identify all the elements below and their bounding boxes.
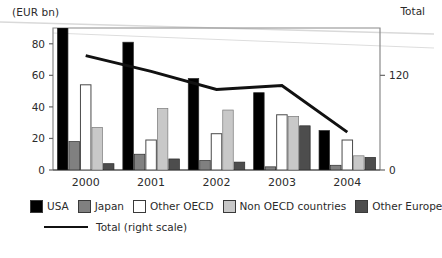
bar	[319, 131, 330, 170]
x-axis-tick-label: 2001	[137, 176, 165, 189]
x-axis-tick-label: 2000	[72, 176, 100, 189]
legend-swatch-non-oecd-countries	[223, 200, 236, 213]
y-axis-tick-label: 60	[32, 69, 45, 81]
legend-swatch-usa	[30, 200, 43, 213]
legend-label-usa: USA	[47, 201, 69, 212]
x-axis-tick-label: 2004	[333, 176, 361, 189]
bar	[123, 42, 134, 170]
legend-item-non-oecd-countries: Non OECD countries	[223, 200, 347, 213]
bar	[277, 115, 288, 170]
bar	[200, 161, 211, 170]
bar	[288, 116, 299, 170]
y-axis-tick-label: 80	[32, 38, 45, 50]
legend-swatch-other-oecd	[133, 200, 146, 213]
legend-label-other-oecd: Other OECD	[150, 201, 213, 212]
bar	[157, 108, 168, 170]
legend-swatch-other-europe	[355, 200, 368, 213]
y-axis-tick-label: 20	[32, 132, 45, 144]
y2-axis-tick-label: 120	[389, 69, 409, 81]
legend-label-non-oecd-countries: Non OECD countries	[240, 201, 347, 212]
legend-item-other-oecd: Other OECD	[133, 200, 213, 213]
bar	[354, 156, 365, 170]
y2-axis-tick-label: 0	[389, 164, 396, 176]
bar	[331, 165, 342, 170]
y-axis-tick-label: 0	[38, 164, 45, 176]
y-axis-tick-label: 40	[32, 101, 45, 113]
bar	[223, 110, 234, 170]
bar	[169, 159, 180, 170]
legend-line-swatch-total	[44, 226, 88, 228]
bar	[69, 142, 80, 170]
bar	[188, 78, 199, 170]
bar	[254, 93, 265, 170]
legend-item-japan: Japan	[78, 200, 124, 213]
bar	[146, 140, 157, 170]
bar	[134, 154, 145, 170]
bar	[234, 162, 245, 170]
chart-legend: USA Japan Other OECD Non OECD countries …	[30, 200, 430, 233]
legend-series-row: USA Japan Other OECD Non OECD countries …	[30, 200, 430, 213]
legend-item-other-europe: Other Europe	[355, 200, 442, 213]
x-axis-tick-label: 2002	[203, 176, 231, 189]
bar	[265, 167, 276, 170]
bar	[103, 164, 114, 170]
bar	[57, 28, 67, 170]
bar	[80, 85, 91, 170]
legend-label-japan: Japan	[95, 201, 124, 212]
bar	[365, 157, 376, 170]
bars-layer	[57, 28, 375, 170]
legend-label-other-europe: Other Europe	[372, 201, 442, 212]
legend-item-usa: USA	[30, 200, 69, 213]
bar	[342, 140, 353, 170]
legend-total-row: Total (right scale)	[30, 222, 430, 233]
bar	[211, 134, 222, 170]
legend-swatch-japan	[78, 200, 91, 213]
bar	[92, 127, 103, 170]
scan-artifact-line	[53, 33, 434, 48]
legend-label-total: Total (right scale)	[96, 222, 187, 233]
x-axis-tick-label: 2003	[268, 176, 296, 189]
bar	[300, 126, 311, 170]
